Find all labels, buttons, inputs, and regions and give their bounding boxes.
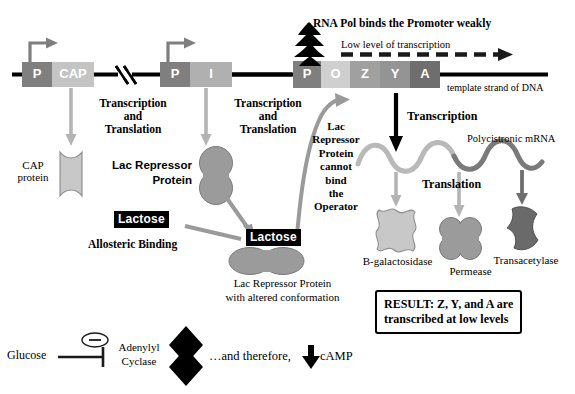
cap-protein-shape [60,152,82,196]
low-transcription-label: Low level of transcription [341,39,450,51]
b-galactosidase-shape [376,209,416,252]
gene-letter-z: Z [350,66,380,81]
altered-repressor-line1: Lac Repressor Protein [190,277,375,291]
lac-repressor-protein-label: Lac Repressor Protein [100,158,192,188]
altered-repressor-line2: with altered conformation [190,291,375,305]
cannot-bind-line-4: bind [305,174,367,187]
gene-letter-a: A [410,66,440,81]
lac-operon-diagram: P CAP P I P O Z Y A RNA Pol binds the Pr… [0,0,575,394]
allosteric-binding-label: Allosteric Binding [88,238,177,251]
cap-protein-line2: protein [8,171,58,183]
i-translation-arrow-icon [201,88,212,146]
rna-pol-label: RNA Pol binds the Promoter weakly [313,17,491,30]
cap-process-line2: and [78,110,188,123]
cannot-bind-line-0: Lac [305,120,367,133]
i-promoter-arrow-icon [168,38,196,63]
cannot-bind-line-5: the [305,187,367,200]
gene-letter-p: P [293,66,321,81]
cap-process-line3: Translation [78,123,188,136]
glucose-label: Glucose [7,349,46,362]
polycistronic-mrna-label: Polycistronic mRNA [467,133,555,145]
polycistronic-mrna-wave [358,141,542,172]
template-strand-label: template strand of DNA [447,82,543,93]
lactose-badge: Lactose [114,211,169,228]
cap-process-label: Transcription and Translation [78,97,188,136]
gene-letter-i: I [190,66,232,81]
cap-protein-label: CAP protein [8,159,58,184]
diagram-canvas [0,0,575,394]
cannot-bind-line-1: Repressor [305,133,367,146]
gene-letter-cap: CAP [52,66,94,81]
permease-shape [440,218,482,260]
cannot-bind-line-3: cannot [305,160,367,173]
operon-transcription-arrow-icon [389,93,403,152]
operon-transcription-label: Transcription [407,110,477,123]
gene-letter-cap-promoter: P [22,66,52,81]
result-line2: transcribed at low levels [384,312,513,327]
adenylyl-cyclase-label: Adenylyl Cyclase [110,341,168,369]
product-label-permease: Permease [418,265,523,277]
cap-protein-line1: CAP [8,159,58,171]
altered-repressor-shape [229,248,304,275]
glucose-inhibition-line [58,333,108,367]
result-box: RESULT: Z, Y, and A are transcribed at l… [375,290,522,334]
gene-letter-y: Y [380,66,410,81]
adenylyl-line1: Adenylyl [110,341,168,355]
result-line1: RESULT: Z, Y, and A are [384,297,513,312]
cap-translation-arrow-icon [66,88,77,146]
lactose-bound-badge: Lactose [246,229,301,246]
transacetylase-shape [507,207,538,250]
gene-letter-i-promoter: P [160,66,190,81]
therefore-label: …and therefore, [209,349,291,363]
down-diamond-icon [169,326,203,386]
gene-letter-o: O [321,66,350,81]
cap-promoter-arrow-icon [30,38,58,63]
i-process-line1: Transcription [213,97,323,110]
cannot-bind-note: Lac Repressor Protein cannot bind the Op… [305,120,367,214]
adenylyl-line2: Cyclase [110,355,168,369]
operon-translation-label: Translation [422,178,481,191]
cannot-bind-line-6: Operator [305,200,367,213]
lac-repressor-line1: Lac Repressor [100,158,192,173]
lac-repressor-line2: Protein [100,173,192,188]
cap-process-line1: Transcription [78,97,188,110]
cannot-bind-line-2: Protein [305,147,367,160]
decrease-camp-arrow-icon [302,345,320,369]
translation-arrow-transacetylase-icon [516,170,528,205]
product-label-transacetylase: Transacetylase [477,254,575,266]
lactose-to-complex-arrow-icon [185,226,241,239]
camp-label: cAMP [320,349,353,363]
lac-repressor-protein-shape [200,147,233,205]
altered-repressor-label: Lac Repressor Protein with altered confo… [190,277,375,305]
translation-arrow-bgal-icon [391,172,402,207]
